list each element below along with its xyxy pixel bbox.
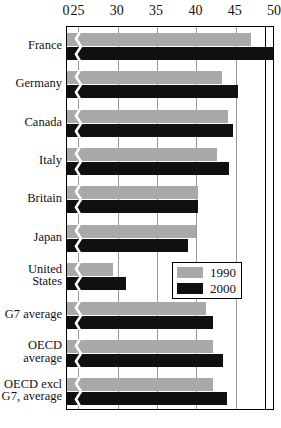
legend-label-1990: 1990 [210, 266, 236, 279]
chart-legend: 1990 2000 [172, 262, 242, 299]
category-label-japan: Japan [0, 231, 62, 244]
bar-1990 [67, 148, 217, 161]
category-label-g7-average: G7 average [0, 308, 62, 321]
category-label-oecd-excl-g7-average: OECD exclG7, average [0, 378, 62, 403]
bar-2000 [67, 277, 126, 290]
label-line: G7, average [0, 390, 62, 403]
legend-label-2000: 2000 [210, 282, 236, 295]
x-tick-25: 25 [70, 4, 84, 18]
category-label-oecd-average: OECDaverage [0, 339, 62, 364]
bar-2000 [67, 200, 198, 213]
bar-1990 [67, 110, 228, 123]
x-tick-40: 40 [188, 4, 202, 18]
label-line: France [0, 39, 62, 52]
x-tick-30: 30 [110, 4, 124, 18]
x-tick-35: 35 [149, 4, 163, 18]
bar-2000 [67, 124, 233, 137]
x-axis-tick-labels: 0253035404550 [0, 0, 281, 26]
x-tick-50: 50 [267, 4, 281, 18]
bar-2000 [67, 354, 223, 367]
label-line: Japan [0, 231, 62, 244]
bar-1990 [67, 225, 196, 238]
bar-2000 [67, 392, 227, 405]
label-line: G7 average [0, 308, 62, 321]
category-label-germany: Germany [0, 77, 62, 90]
label-line: Canada [0, 116, 62, 129]
legend-item-2000: 2000 [177, 282, 236, 295]
bar-1990 [67, 340, 213, 353]
category-label-france: France [0, 39, 62, 52]
axis-end-rule [265, 27, 266, 409]
bar-1990 [67, 186, 198, 199]
category-label-canada: Canada [0, 116, 62, 129]
black-swatch [177, 283, 203, 294]
bar-2000 [67, 239, 188, 252]
bar-1990 [67, 302, 206, 315]
x-tick-0: 0 [63, 4, 70, 18]
plot-area [66, 26, 274, 410]
bar-2000 [67, 47, 274, 60]
label-line: States [0, 275, 62, 288]
label-line: Germany [0, 77, 62, 90]
bar-1990 [67, 71, 222, 84]
bar-2000 [67, 162, 229, 175]
category-label-britain: Britain [0, 192, 62, 205]
bar-1990 [67, 33, 251, 46]
legend-item-1990: 1990 [177, 266, 236, 279]
bar-chart: 0253035404550 FranceGermanyCanadaItalyBr… [0, 0, 281, 428]
bar-1990 [67, 378, 213, 391]
label-line: average [0, 352, 62, 365]
category-label-italy: Italy [0, 154, 62, 167]
bar-1990 [67, 263, 113, 276]
label-line: Britain [0, 192, 62, 205]
gray-swatch [177, 267, 203, 278]
category-label-united-states: UnitedStates [0, 263, 62, 288]
x-tick-45: 45 [228, 4, 242, 18]
bar-2000 [67, 316, 213, 329]
bar-2000 [67, 85, 238, 98]
label-line: Italy [0, 154, 62, 167]
